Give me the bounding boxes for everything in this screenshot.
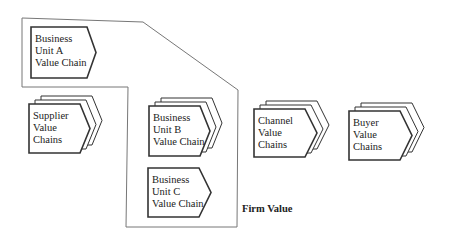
node-label-line: Chains	[353, 141, 382, 153]
node-label-channel: ChannelValueChains	[258, 115, 293, 151]
node-label-line: Value	[353, 129, 382, 141]
node-label-line: Supplier	[33, 110, 69, 122]
node-label-unit-c: BusinessUnit CValue Chain	[152, 174, 204, 210]
node-label-line: Value Chain	[153, 136, 205, 148]
node-label-line: Business	[35, 33, 87, 45]
node-label-unit-a: BusinessUnit AValue Chain	[35, 33, 87, 69]
node-label-line: Buyer	[353, 117, 382, 129]
node-label-line: Business	[152, 174, 204, 186]
node-label-buyer: BuyerValueChains	[353, 117, 382, 153]
node-label-line: Unit B	[153, 124, 205, 136]
node-label-line: Unit A	[35, 45, 87, 57]
value-system-diagram: Firm Value BusinessUnit AValue ChainSupp…	[0, 0, 450, 238]
node-label-line: Business	[153, 112, 205, 124]
node-label-line: Value Chain	[35, 57, 87, 69]
firm-value-label: Firm Value	[242, 203, 292, 214]
node-label-line: Value	[33, 122, 69, 134]
node-label-line: Chains	[258, 139, 293, 151]
node-label-line: Value Chain	[152, 198, 204, 210]
node-label-supplier: SupplierValueChains	[33, 110, 69, 146]
node-label-line: Chains	[33, 134, 69, 146]
node-label-line: Unit C	[152, 186, 204, 198]
node-label-line: Channel	[258, 115, 293, 127]
node-label-line: Value	[258, 127, 293, 139]
node-label-unit-b: BusinessUnit BValue Chain	[153, 112, 205, 148]
